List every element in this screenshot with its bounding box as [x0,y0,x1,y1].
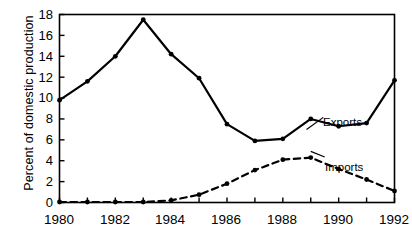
x-tick-label: 1986 [200,213,252,227]
x-tick-label: 1980 [33,213,85,227]
x-tick-label: 1982 [89,213,141,227]
series-annotation-imports: Imports [325,161,363,173]
x-tick-label: 1988 [256,213,308,227]
series-annotation-exports: Exports [323,116,362,128]
chart-figure: Percent of domestic production 18 16 14 … [0,0,412,250]
x-tick-label: 1990 [312,213,364,227]
x-tick-label: 1984 [144,213,196,227]
x-tick-label: 1992 [368,213,412,227]
